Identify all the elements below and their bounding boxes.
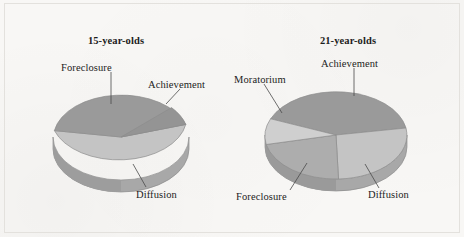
- pie-slices-right: [265, 92, 407, 179]
- pie-slices-left: [54, 95, 185, 160]
- label-diffusion-left: Diffusion: [136, 189, 177, 200]
- label-foreclosure-right: Foreclosure: [236, 191, 287, 202]
- label-moratorium-right: Moratorium: [234, 74, 286, 85]
- leader-moratorium-right: [264, 84, 282, 113]
- pie-svg-left: [0, 0, 232, 237]
- label-foreclosure-left: Foreclosure: [61, 62, 112, 73]
- label-achievement-left: Achievement: [148, 79, 205, 90]
- figure-container: 15-year-olds: [0, 0, 464, 237]
- pie-chart-21-year-olds: 21-year-olds: [232, 0, 464, 237]
- label-achievement-right: Achievement: [321, 58, 378, 69]
- label-diffusion-right: Diffusion: [368, 189, 409, 200]
- slice-diffusion-right: [336, 128, 407, 179]
- pie-chart-15-year-olds: 15-year-olds: [0, 0, 232, 237]
- leader-achievement-left: [166, 89, 180, 104]
